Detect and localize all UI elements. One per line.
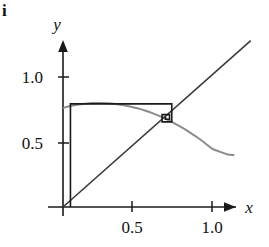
figure-root: i 1.0 0.5 0.5 1.0 y x: [0, 0, 269, 247]
y-tick-label-0.5: 0.5: [22, 134, 43, 153]
y-tick-label-1.0: 1.0: [22, 68, 43, 87]
x-axis-arrow-icon: [224, 202, 236, 212]
series-identity-line: [63, 41, 251, 207]
tick-labels-group: 1.0 0.5 0.5 1.0: [22, 68, 223, 237]
series-map-curve: [63, 103, 234, 155]
series-group: [63, 41, 251, 207]
y-axis-label: y: [51, 15, 61, 34]
y-axis-arrow-icon: [58, 40, 68, 52]
figure-label: i: [2, 2, 7, 19]
x-tick-label-1.0: 1.0: [201, 218, 222, 237]
x-axis-label: x: [244, 198, 253, 217]
cobweb-plot: 1.0 0.5 0.5 1.0 y x: [0, 0, 269, 247]
x-tick-label-0.5: 0.5: [121, 218, 142, 237]
axes-group: [48, 40, 236, 216]
